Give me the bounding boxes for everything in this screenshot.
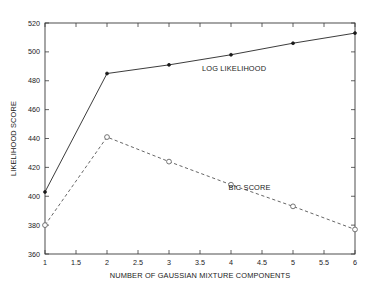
x-tick-label: 1.5 bbox=[71, 258, 81, 267]
x-tick-label: 1 bbox=[43, 258, 47, 267]
y-tick-label: 400 bbox=[28, 192, 40, 201]
x-axis-title: NUMBER OF GAUSSIAN MIXTURE COMPONENTS bbox=[110, 271, 290, 280]
data-point-marker[interactable] bbox=[43, 223, 48, 228]
x-tick-label: 5.5 bbox=[319, 258, 329, 267]
x-tick-label: 3 bbox=[167, 258, 171, 267]
x-tick-label: 5 bbox=[291, 258, 295, 267]
plot-frame bbox=[45, 23, 355, 254]
y-tick-label: 440 bbox=[28, 134, 40, 143]
y-tick-label: 380 bbox=[28, 221, 40, 230]
series-line-bic-score bbox=[45, 137, 355, 229]
data-point-marker[interactable] bbox=[353, 227, 358, 232]
y-axis-title: LIKELIHOOD SCORE bbox=[9, 101, 18, 176]
data-point-marker[interactable] bbox=[106, 72, 109, 75]
x-tick-label: 6 bbox=[353, 258, 357, 267]
data-point-marker[interactable] bbox=[354, 32, 357, 35]
data-point-marker[interactable] bbox=[44, 190, 47, 193]
y-tick-label: 360 bbox=[28, 250, 40, 259]
chart-figure: 11.522.533.544.555.563603804004204404604… bbox=[0, 0, 374, 292]
x-tick-label: 3.5 bbox=[195, 258, 205, 267]
data-point-marker[interactable] bbox=[105, 135, 110, 140]
series-annotation-bic-score: BIC SCORE bbox=[229, 183, 271, 192]
chart-canvas: 11.522.533.544.555.563603804004204404604… bbox=[0, 0, 374, 292]
data-point-marker[interactable] bbox=[168, 63, 171, 66]
y-tick-label: 420 bbox=[28, 163, 40, 172]
y-tick-label: 480 bbox=[28, 76, 40, 85]
y-tick-label: 520 bbox=[28, 19, 40, 28]
y-tick-label: 460 bbox=[28, 105, 40, 114]
x-tick-label: 4 bbox=[229, 258, 233, 267]
x-tick-label: 4.5 bbox=[257, 258, 267, 267]
data-point-marker[interactable] bbox=[230, 53, 233, 56]
x-tick-label: 2 bbox=[105, 258, 109, 267]
data-point-marker[interactable] bbox=[167, 159, 172, 164]
data-point-marker[interactable] bbox=[291, 204, 296, 209]
series-line-log-likelihood bbox=[45, 33, 355, 192]
x-tick-label: 2.5 bbox=[133, 258, 143, 267]
y-tick-label: 500 bbox=[28, 47, 40, 56]
series-annotation-log-likelihood: LOG LIKELIHOOD bbox=[202, 64, 266, 73]
data-point-marker[interactable] bbox=[292, 42, 295, 45]
